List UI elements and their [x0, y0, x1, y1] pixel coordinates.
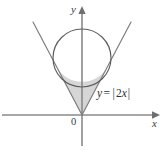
- y-axis-label: y: [71, 4, 76, 15]
- x-axis-label: x: [152, 118, 157, 129]
- figure-container: y x 0 y=|2x|: [0, 0, 164, 152]
- graph-canvas: [0, 0, 164, 152]
- equation-label: y=|2x|: [97, 88, 131, 100]
- equation-close-bar: |: [127, 87, 131, 99]
- y-axis-arrow-icon: [78, 6, 85, 14]
- equation-variable: x: [122, 87, 127, 99]
- equation-operator: =: [102, 87, 112, 99]
- origin-label: 0: [71, 117, 76, 128]
